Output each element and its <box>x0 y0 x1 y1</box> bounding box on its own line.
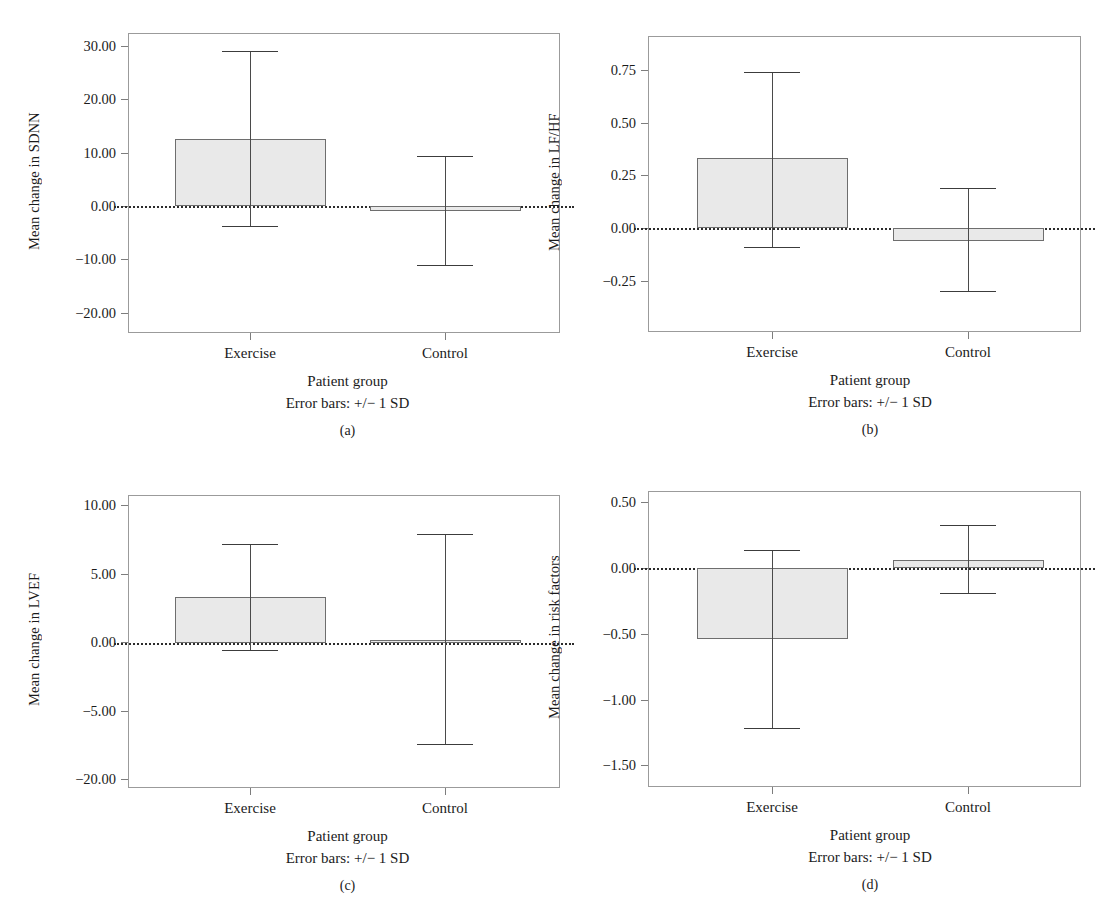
y-axis-tick-mark <box>641 123 648 124</box>
error-bar-note: Error bars: +/− 1 SD <box>808 849 932 866</box>
error-bar-cap-lower <box>222 226 278 227</box>
y-axis-tick-label: 0.00 <box>0 198 116 215</box>
x-axis-tick-label-exercise: Exercise <box>746 344 798 361</box>
x-axis-tick-label-control: Control <box>422 345 468 362</box>
y-axis-tick-label: 30.00 <box>0 38 116 55</box>
error-bar-line-control <box>445 534 446 743</box>
y-axis-title: Mean change in risk factors <box>546 497 563 777</box>
chart-panel-d: 0.500.00−0.50−1.00−1.50ExerciseControlMe… <box>550 455 1101 909</box>
error-bar-cap-lower <box>940 291 996 292</box>
y-axis-tick-mark <box>641 765 648 766</box>
y-axis-tick-mark <box>121 313 128 314</box>
error-bar-cap-lower <box>417 265 473 266</box>
x-axis-tick-label-exercise: Exercise <box>224 800 276 817</box>
y-axis-tick-mark <box>121 574 128 575</box>
y-axis-tick-mark <box>641 502 648 503</box>
error-bar-line-control <box>968 525 969 593</box>
error-bar-cap-upper <box>744 550 800 551</box>
y-axis-tick-label: 0.00 <box>0 634 116 651</box>
x-axis-title: Patient group <box>830 827 910 844</box>
y-axis-tick-mark <box>121 153 128 154</box>
y-axis-tick-mark <box>121 99 128 100</box>
error-bar-cap-upper <box>744 72 800 73</box>
y-axis-tick-label: 10.00 <box>0 497 116 514</box>
error-bar-line-control <box>445 156 446 265</box>
error-bar-cap-upper <box>417 534 473 535</box>
x-axis-tick-mark <box>250 788 251 795</box>
error-bar-note: Error bars: +/− 1 SD <box>286 395 410 412</box>
y-axis-tick-mark <box>121 779 128 780</box>
error-bar-cap-upper <box>222 51 278 52</box>
x-axis-tick-mark <box>445 788 446 795</box>
y-axis-tick-mark <box>641 281 648 282</box>
error-bar-cap-upper <box>222 544 278 545</box>
x-axis-tick-mark <box>968 787 969 794</box>
y-axis-tick-label: −5.00 <box>0 702 116 719</box>
x-axis-tick-label-exercise: Exercise <box>224 345 276 362</box>
error-bar-note: Error bars: +/− 1 SD <box>808 394 932 411</box>
x-axis-tick-mark <box>772 332 773 339</box>
error-bar-line-exercise <box>250 51 251 225</box>
chart-panel-c: 10.005.000.00−5.00−20.00ExerciseControlM… <box>0 455 550 909</box>
y-axis-tick-mark <box>121 711 128 712</box>
error-bar-line-exercise <box>772 72 773 247</box>
y-axis-title: Mean change in SDNN <box>26 39 43 323</box>
x-axis-tick-mark <box>772 787 773 794</box>
error-bar-cap-upper <box>940 188 996 189</box>
x-axis-title: Patient group <box>307 373 387 390</box>
y-axis-tick-label: −10.00 <box>0 251 116 268</box>
y-axis-tick-mark <box>121 259 128 260</box>
x-axis-tick-label-control: Control <box>945 344 991 361</box>
y-axis-tick-mark <box>641 175 648 176</box>
x-axis-tick-label-control: Control <box>945 799 991 816</box>
error-bar-cap-lower <box>222 650 278 651</box>
zero-reference-line <box>114 643 574 645</box>
x-axis-tick-mark <box>250 333 251 340</box>
y-axis-tick-mark <box>641 634 648 635</box>
error-bar-cap-upper <box>940 525 996 526</box>
y-axis-tick-label: −20.00 <box>0 771 116 788</box>
error-bar-line-exercise <box>772 550 773 729</box>
plot-frame <box>648 491 1081 787</box>
error-bar-cap-lower <box>744 247 800 248</box>
panel-caption: (a) <box>340 423 356 439</box>
y-axis-tick-mark <box>641 700 648 701</box>
x-axis-tick-label-exercise: Exercise <box>746 799 798 816</box>
chart-panel-a: 30.0020.0010.000.00−10.00−20.00ExerciseC… <box>0 0 550 455</box>
error-bar-cap-upper <box>417 156 473 157</box>
error-bar-note: Error bars: +/− 1 SD <box>286 850 410 867</box>
panel-caption: (d) <box>862 877 878 893</box>
x-axis-tick-label-control: Control <box>422 800 468 817</box>
y-axis-tick-label: −20.00 <box>0 304 116 321</box>
panel-caption: (c) <box>340 878 356 894</box>
x-axis-title: Patient group <box>830 372 910 389</box>
y-axis-tick-mark <box>121 46 128 47</box>
error-bar-cap-lower <box>940 593 996 594</box>
y-axis-title: Mean change in LVEF <box>26 501 43 778</box>
x-axis-tick-mark <box>968 332 969 339</box>
error-bar-line-control <box>968 188 969 291</box>
y-axis-tick-label: 10.00 <box>0 144 116 161</box>
chart-panel-b: 0.750.500.250.00−0.25ExerciseControlMean… <box>550 0 1101 455</box>
error-bar-cap-lower <box>417 744 473 745</box>
figure-grid: 30.0020.0010.000.00−10.00−20.00ExerciseC… <box>0 0 1101 909</box>
y-axis-tick-mark <box>121 505 128 506</box>
y-axis-tick-label: 20.00 <box>0 91 116 108</box>
x-axis-tick-mark <box>445 333 446 340</box>
y-axis-tick-mark <box>641 70 648 71</box>
x-axis-title: Patient group <box>307 828 387 845</box>
error-bar-cap-lower <box>744 728 800 729</box>
y-axis-tick-label: 5.00 <box>0 565 116 582</box>
panel-caption: (b) <box>862 422 878 438</box>
y-axis-title: Mean change in LF/HF <box>546 42 563 322</box>
error-bar-line-exercise <box>250 544 251 650</box>
